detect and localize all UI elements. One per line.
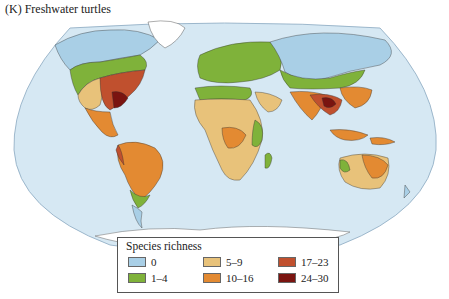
- region-north-africa-green: [195, 86, 252, 100]
- swatch-5-9: [203, 257, 221, 267]
- figure-title: (K) Freshwater turtles: [5, 2, 111, 17]
- legend-label: 10–16: [226, 272, 254, 284]
- legend-label: 5–9: [226, 256, 243, 268]
- swatch-17-23: [278, 257, 296, 267]
- legend-item-5-9: 5–9: [203, 256, 243, 268]
- legend-label: 0: [151, 256, 157, 268]
- legend-item-0: 0: [128, 256, 157, 268]
- legend-label: 24–30: [301, 272, 329, 284]
- legend-item-1-4: 1–4: [128, 272, 168, 284]
- swatch-10-16: [203, 273, 221, 283]
- swatch-1-4: [128, 273, 146, 283]
- legend-label: 1–4: [151, 272, 168, 284]
- legend-label: 17–23: [301, 256, 329, 268]
- legend-item-17-23: 17–23: [278, 256, 329, 268]
- legend-item-24-30: 24–30: [278, 272, 329, 284]
- swatch-24-30: [278, 273, 296, 283]
- legend: Species richness 0 1–4 5–9 10–16 17–23 2…: [117, 237, 339, 293]
- legend-item-10-16: 10–16: [203, 272, 254, 284]
- legend-title: Species richness: [126, 240, 202, 252]
- swatch-0: [128, 257, 146, 267]
